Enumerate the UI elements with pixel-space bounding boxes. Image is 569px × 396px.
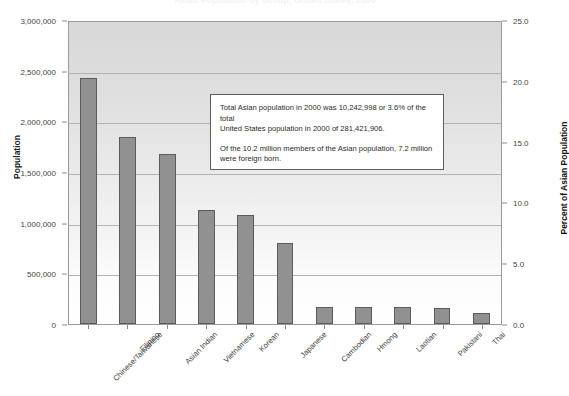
bar-laotian[interactable] [394,307,411,324]
y-axis-left-tickmark [62,274,67,275]
annotation-line-4: were foreign born. [220,154,434,165]
y-axis-right-tick-label: 25.0 [513,17,529,26]
bar-slot [462,22,501,324]
y-axis-right-tick-label: 10.0 [513,199,529,208]
annotation-line-2: United States population in 2000 of 281,… [220,124,434,135]
x-axis-label-laotian: Laotian [415,330,439,354]
bar-slot [344,22,383,324]
y-axis-right: 0.05.010.015.020.025.0 [502,21,550,325]
bar-pakistani[interactable] [434,308,451,324]
bar-slot [383,22,422,324]
y-axis-right-tick-label: 15.0 [513,138,529,147]
bar-slot [69,22,108,324]
y-axis-left-tick-label: 2,500,000 [20,67,56,76]
y-axis-left-tick-label: 0 [52,321,56,330]
y-axis-left-tickmark [62,325,67,326]
bar-hmong[interactable] [355,307,372,324]
annotation-line-3: Of the 10.2 million members of the Asian… [220,144,434,155]
y-axis-left-tick-label: 1,500,000 [20,169,56,178]
y-axis-right-tickmark [502,203,507,204]
bar-thai[interactable] [473,313,490,324]
y-axis-left: 0500,0001,000,0001,500,0002,000,0002,500… [0,21,62,325]
y-axis-left-tick-label: 3,000,000 [20,17,56,26]
bar-korean[interactable] [237,215,254,324]
y-axis-right-tick-label: 0.0 [513,321,524,330]
bar-slot [187,22,226,324]
annotation-textbox: Total Asian population in 2000 was 10,24… [210,94,444,170]
x-axis-label-thai: Thai [491,330,508,347]
bar-cambodian[interactable] [316,307,333,324]
y-axis-right-tickmark [502,264,507,265]
bar-slot [305,22,344,324]
bar-slot [108,22,147,324]
x-axis-label-cambodian: Cambodian [340,330,374,364]
y-axis-left-tickmark [62,71,67,72]
bar-slot [226,22,265,324]
x-axis-labels: Chinese/TaiwaneseFilipinoAsian IndianVie… [68,330,502,396]
y-axis-left-tick-label: 1,000,000 [20,219,56,228]
annotation-line-1: Total Asian population in 2000 was 10,24… [220,103,434,124]
bar-slot [265,22,304,324]
bar-filipino[interactable] [119,137,136,324]
bar-slot [422,22,461,324]
bar-vietnamese[interactable] [198,210,215,324]
x-axis-label-korean: Korean [257,330,281,354]
bar-chinese-taiwanese[interactable] [80,78,97,325]
y-axis-left-tickmark [62,173,67,174]
y-axis-left-tick-label: 500,000 [27,270,56,279]
y-axis-right-tickmark [502,21,507,22]
page-title: Asian Population by Group, United States… [0,0,550,5]
y-axis-right-tick-label: 20.0 [513,77,529,86]
y-axis-left-title: Population [12,107,22,207]
plot-area [68,21,502,325]
x-axis-label-hmong: Hmong [375,330,399,354]
y-axis-left-tickmark [62,223,67,224]
y-axis-right-tick-label: 5.0 [513,260,524,269]
annotation-spacer [220,135,434,144]
x-axis-label-vietnamese: Vietnamese [222,330,257,365]
bar-asian-indian[interactable] [159,154,176,324]
y-axis-right-tickmark [502,142,507,143]
y-axis-right-tickmark [502,81,507,82]
y-axis-right-tickmark [502,325,507,326]
y-axis-left-tickmark [62,122,67,123]
y-axis-left-tickmark [62,21,67,22]
y-axis-left-tick-label: 2,000,000 [20,118,56,127]
bar-series [69,22,501,324]
y-axis-right-title: Percent of Asian Population [559,103,569,253]
bar-slot [148,22,187,324]
x-axis-label-japanese: Japanese [299,330,329,360]
x-axis-label-pakistani: Pakistani [456,330,484,358]
x-axis-label-asian-indian: Asian Indian [183,330,219,366]
bar-japanese[interactable] [277,243,294,324]
